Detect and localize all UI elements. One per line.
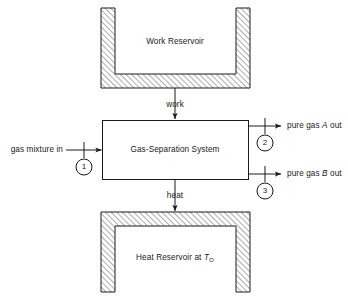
heat-flow-label: heat <box>167 192 183 200</box>
outlet-stream-b-label: pure gas B out <box>287 170 342 178</box>
outlet-stream-a-label: pure gas A out <box>287 122 342 130</box>
heat-reservoir-temperature-subscript: O <box>209 256 214 263</box>
heat-reservoir-label: Heat Reservoir at TO <box>136 254 214 263</box>
work-reservoir-label: Work Reservoir <box>146 38 204 46</box>
heat-reservoir-shape <box>101 212 250 292</box>
work-flow-label: work <box>166 101 184 109</box>
system-box-label: Gas-Separation System <box>130 146 219 154</box>
outlet-a-prefix: pure gas <box>287 121 322 130</box>
outlet-b-prefix: pure gas <box>287 169 322 178</box>
port-number-2: 2 <box>263 139 267 147</box>
heat-reservoir-label-prefix: Heat Reservoir at <box>136 253 204 262</box>
port-number-1: 1 <box>82 163 86 171</box>
inlet-stream-label: gas mixture in <box>11 146 63 154</box>
outlet-a-suffix: out <box>328 121 342 130</box>
gas-separation-diagram: Work Reservoir work Gas-Separation Syste… <box>0 0 348 298</box>
port-number-3: 3 <box>263 187 267 195</box>
outlet-b-suffix: out <box>328 169 342 178</box>
work-reservoir-shape <box>101 8 250 88</box>
